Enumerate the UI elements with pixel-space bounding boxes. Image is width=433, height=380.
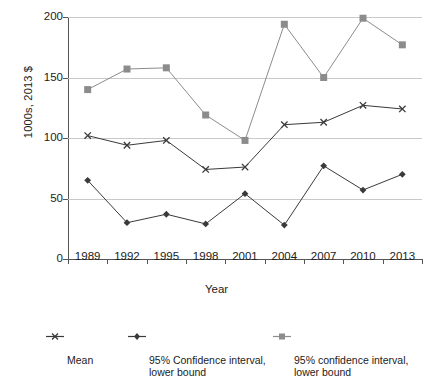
chart-legend: Mean 95% Confidence interval, lower boun… (0, 328, 433, 361)
data-point-square (84, 86, 91, 93)
square-marker-icon (273, 331, 291, 342)
x-axis-label: 2004 (265, 250, 304, 262)
y-axis-title: 1000s, 2013 $ (22, 32, 34, 172)
x-axis-label: 1998 (186, 250, 225, 262)
data-point-square (399, 41, 406, 48)
data-point-square (320, 74, 327, 81)
x-axis-label: 1989 (68, 250, 107, 262)
y-axis-label: 150 (21, 72, 63, 84)
x-axis-label: 2013 (383, 250, 422, 262)
data-point-square (163, 64, 170, 71)
series-2 (84, 162, 405, 228)
legend-item-lower-bound[interactable]: 95% Confidence interval, lower bound (128, 330, 266, 380)
data-point-diamond (360, 187, 367, 194)
data-series-layer (68, 17, 422, 260)
x-axis-label: 1992 (107, 250, 146, 262)
data-point-square (360, 15, 367, 22)
data-point-square (202, 112, 209, 119)
data-point-square (124, 66, 131, 73)
x-axis-label: 2010 (343, 250, 382, 262)
series-line (88, 18, 403, 140)
data-point-diamond (399, 171, 406, 178)
series-3 (84, 15, 406, 144)
y-axis-label: 100 (21, 132, 63, 144)
legend-item-upper-bound[interactable]: 95% confidence interval, lower bound (273, 330, 408, 380)
data-point-diamond (163, 211, 170, 218)
diamond-marker-icon (128, 331, 146, 342)
y-axis-label: 50 (21, 193, 63, 205)
x-axis-label: 2001 (225, 250, 264, 262)
x-axis-label: 2007 (304, 250, 343, 262)
data-point-diamond (320, 162, 327, 169)
y-axis-label: 200 (21, 11, 63, 23)
data-point-square (281, 21, 288, 28)
data-point-square (242, 137, 249, 144)
x-marker-icon (46, 331, 64, 342)
data-point-x (84, 132, 90, 138)
x-axis-tick (422, 259, 423, 264)
y-axis-label: 0 (21, 253, 63, 265)
plot-area (68, 17, 422, 259)
x-axis-title: Year (0, 283, 433, 295)
legend-item-mean[interactable]: Mean (46, 330, 93, 378)
legend-label-mean: Mean (67, 354, 93, 366)
legend-label-lower-bound: 95% Confidence interval, lower bound (149, 354, 266, 378)
legend-label-upper-bound: 95% confidence interval, lower bound (294, 354, 408, 378)
x-axis-label: 1995 (147, 250, 186, 262)
